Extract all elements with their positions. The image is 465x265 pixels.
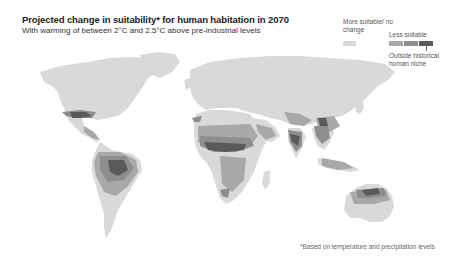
page-title: Projected change in suitability* for hum… — [22, 14, 289, 25]
legend-outside-niche-label: Outside historical human niche — [389, 52, 449, 67]
legend-swatch-less-1 — [389, 41, 403, 46]
legend-pointer-line — [426, 46, 427, 51]
footnote: *Based on temperature and precipitation … — [300, 243, 435, 250]
legend-swatch-less-2 — [404, 41, 418, 46]
legend-less-suitable-label: Less suitable — [389, 31, 427, 39]
legend-more-suitable-label: More suitable/ no change — [343, 18, 393, 33]
page-subtitle: With warming of between 2°C and 2.5°C ab… — [22, 26, 261, 35]
legend-swatch-more-suitable — [343, 41, 356, 46]
legend: More suitable/ no change Less suitable O… — [343, 18, 463, 68]
